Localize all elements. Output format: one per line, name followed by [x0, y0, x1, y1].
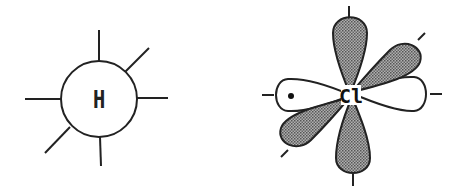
chlorine-label: Cl	[339, 84, 363, 108]
orbital-diagram: H Cl	[0, 0, 461, 193]
bond-line-upper-right	[125, 48, 149, 72]
tick-lower-left	[281, 150, 288, 157]
hydrogen-label: H	[93, 85, 105, 113]
tick-upper-right	[418, 33, 425, 40]
electron-dot	[288, 93, 294, 99]
bond-line-bottom	[100, 137, 101, 166]
bond-line-lower-left	[45, 127, 70, 153]
